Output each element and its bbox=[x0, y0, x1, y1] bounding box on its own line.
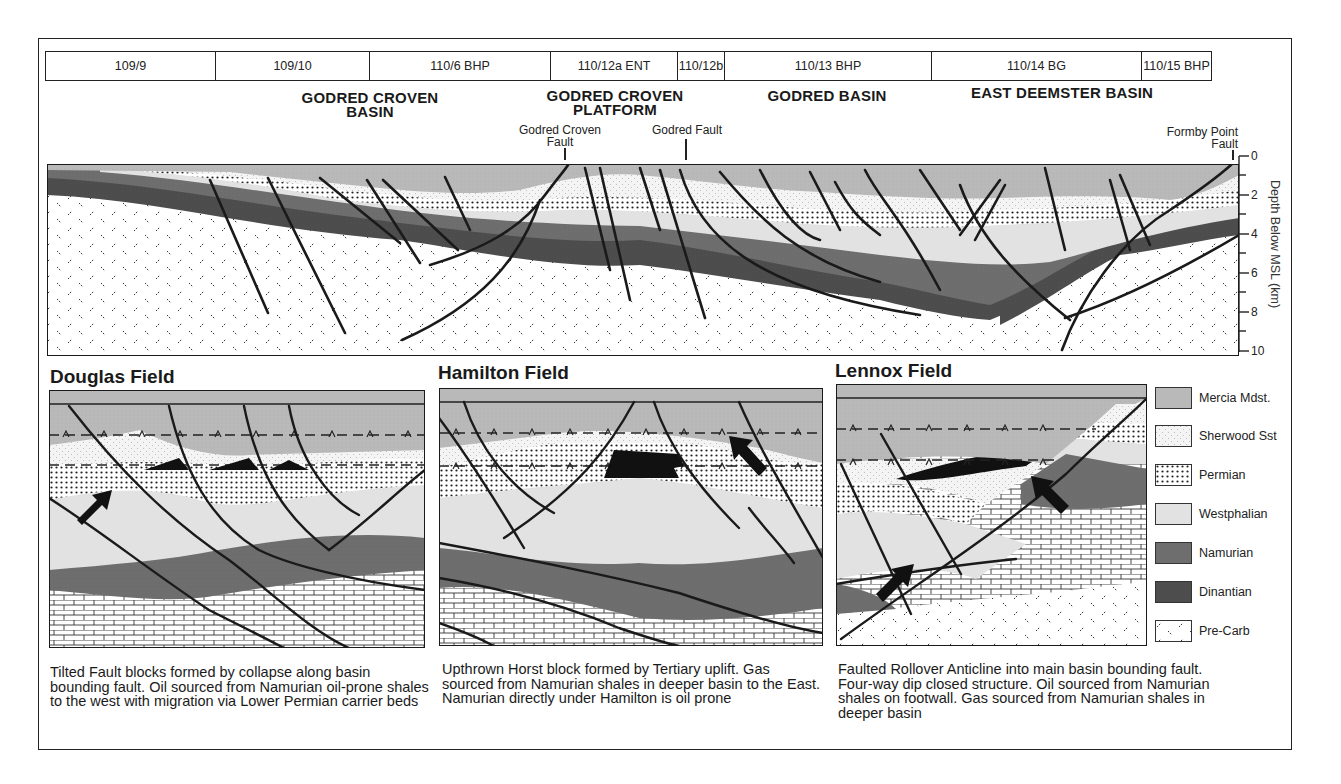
legend-item-mercia: Mercia Mdst. bbox=[1155, 386, 1271, 410]
caption-douglas: Tilted Fault blocks formed by collapse a… bbox=[50, 665, 430, 709]
legend-label: Dinantian bbox=[1199, 585, 1252, 599]
hamilton-field-section bbox=[439, 388, 823, 646]
depth-axis bbox=[1239, 156, 1249, 352]
lennox-field-section bbox=[836, 384, 1147, 646]
namurian-swatch-icon bbox=[1155, 542, 1192, 564]
legend-item-precarb: Pre-Carb bbox=[1155, 619, 1250, 643]
mercia-swatch-icon bbox=[1155, 387, 1192, 409]
legend-label: Westphalian bbox=[1199, 507, 1268, 521]
caption-lennox: Faulted Rollover Anticline into main bas… bbox=[838, 662, 1223, 720]
legend-item-sherwood: Sherwood Sst bbox=[1155, 424, 1277, 448]
legend-item-namurian: Namurian bbox=[1155, 541, 1253, 565]
depth-tick: 0 bbox=[1251, 149, 1258, 163]
precarb-swatch-icon bbox=[1155, 620, 1192, 642]
legend-item-dinantian: Dinantian bbox=[1155, 580, 1252, 604]
legend-label: Sherwood Sst bbox=[1199, 429, 1277, 443]
permian-swatch-icon bbox=[1155, 464, 1192, 486]
westphalian-swatch-icon bbox=[1155, 503, 1192, 525]
panel-title-hamilton: Hamilton Field bbox=[438, 362, 569, 384]
depth-tick: 2 bbox=[1251, 188, 1258, 202]
depth-axis-label: Depth Below MSL (km) bbox=[1268, 180, 1282, 308]
legend-label: Namurian bbox=[1199, 546, 1253, 560]
depth-tick: 4 bbox=[1251, 227, 1258, 241]
legend-label: Mercia Mdst. bbox=[1199, 391, 1271, 405]
depth-tick: 8 bbox=[1251, 305, 1258, 319]
legend-item-westphalian: Westphalian bbox=[1155, 502, 1268, 526]
panel-title-douglas: Douglas Field bbox=[50, 366, 175, 388]
caption-hamilton: Upthrown Horst block formed by Tertiary … bbox=[442, 662, 822, 706]
dinantian-swatch-icon bbox=[1155, 581, 1192, 603]
legend-label: Pre-Carb bbox=[1199, 624, 1250, 638]
depth-tick: 6 bbox=[1251, 266, 1258, 280]
depth-tick: 10 bbox=[1251, 344, 1264, 358]
panel-title-lennox: Lennox Field bbox=[835, 360, 952, 382]
sherwood-swatch-icon bbox=[1155, 425, 1192, 447]
legend-item-permian: Permian bbox=[1155, 463, 1246, 487]
douglas-field-section bbox=[49, 390, 425, 648]
legend-label: Permian bbox=[1199, 468, 1246, 482]
